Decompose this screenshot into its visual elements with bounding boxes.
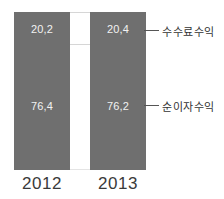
bar-2013: 20,4 76,2	[90, 12, 146, 170]
baseline	[70, 169, 90, 170]
bar-2012: 20,2 76,4	[14, 12, 70, 170]
x-label-2013: 2013	[90, 174, 146, 194]
fee-income-leader-line	[144, 30, 159, 31]
net-interest-value-2012: 76,4	[14, 100, 70, 112]
segment-connector-line	[70, 44, 90, 45]
fee-income-value-2013: 20,4	[90, 23, 146, 35]
fee-income-value-2012: 20,2	[14, 23, 70, 35]
x-label-2012: 2012	[14, 174, 70, 194]
net-interest-leader-line	[144, 105, 159, 106]
top-connector-line	[70, 12, 90, 13]
legend-net-interest-income: 순이자수익	[162, 98, 215, 114]
legend-fee-income: 수수료수익	[162, 23, 215, 39]
net-interest-value-2013: 76,2	[90, 100, 146, 112]
stacked-bar-chart: 20,2 76,4 20,4 76,2 수수료수익 순이자수익 2012 201…	[0, 0, 224, 199]
